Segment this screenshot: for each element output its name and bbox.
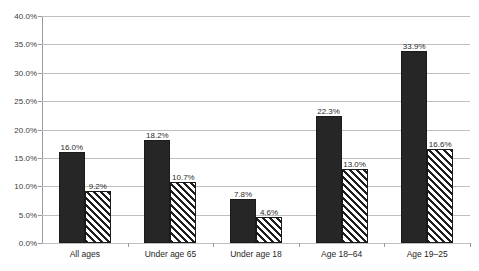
bar-group: 33.9%16.6% bbox=[401, 16, 453, 243]
y-axis-tick-label: 15.0% bbox=[14, 153, 37, 162]
y-axis-tick-mark bbox=[38, 186, 42, 187]
y-axis-tick-mark bbox=[38, 44, 42, 45]
x-axis-tick-mark bbox=[128, 243, 129, 247]
bar[interactable]: 9.2% bbox=[85, 191, 111, 243]
bar-value-label: 9.2% bbox=[89, 182, 107, 191]
x-axis-category-label: Under age 65 bbox=[128, 249, 214, 259]
y-axis-tick-label: 40.0% bbox=[14, 12, 37, 21]
bar-value-label: 13.0% bbox=[343, 160, 366, 169]
bar[interactable]: 16.0% bbox=[59, 152, 85, 243]
bar[interactable]: 22.3% bbox=[316, 116, 342, 243]
bar-value-label: 33.9% bbox=[403, 42, 426, 51]
y-axis-tick-mark bbox=[38, 130, 42, 131]
chart-title bbox=[0, 0, 479, 2]
bar[interactable]: 13.0% bbox=[342, 169, 368, 243]
bar-value-label: 10.7% bbox=[172, 173, 195, 182]
x-axis-tick-mark bbox=[299, 243, 300, 247]
bar-value-label: 22.3% bbox=[317, 107, 340, 116]
x-axis-tick-mark bbox=[384, 243, 385, 247]
y-axis-tick-mark bbox=[38, 101, 42, 102]
bar[interactable]: 16.6% bbox=[427, 149, 453, 243]
y-axis-tick-label: 25.0% bbox=[14, 97, 37, 106]
bar[interactable]: 10.7% bbox=[170, 182, 196, 243]
y-axis-tick-label: 20.0% bbox=[14, 125, 37, 134]
y-axis-tick-mark bbox=[38, 243, 42, 244]
y-axis-tick-mark bbox=[38, 73, 42, 74]
y-axis-tick-label: 10.0% bbox=[14, 182, 37, 191]
x-axis-category-label: Age 19–25 bbox=[384, 249, 470, 259]
bar-group: 16.0%9.2% bbox=[59, 16, 111, 243]
y-axis-tick-label: 30.0% bbox=[14, 68, 37, 77]
bar[interactable]: 4.6% bbox=[256, 217, 282, 243]
bar-group: 18.2%10.7% bbox=[144, 16, 196, 243]
x-axis-category-label: Age 18–64 bbox=[299, 249, 385, 259]
y-axis-tick-mark bbox=[38, 158, 42, 159]
y-axis-tick-label: 5.0% bbox=[19, 210, 37, 219]
gridline bbox=[42, 243, 470, 244]
bar[interactable]: 33.9% bbox=[401, 51, 427, 243]
y-axis-tick-mark bbox=[38, 215, 42, 216]
bar-value-label: 7.8% bbox=[234, 190, 252, 199]
bar-chart: 0.0%5.0%10.0%15.0%20.0%25.0%30.0%35.0%40… bbox=[0, 0, 479, 271]
bar-group: 7.8%4.6% bbox=[230, 16, 282, 243]
y-axis-tick-mark bbox=[38, 16, 42, 17]
bar-value-label: 16.0% bbox=[60, 143, 83, 152]
bar[interactable]: 7.8% bbox=[230, 199, 256, 243]
x-axis-category-label: Under age 18 bbox=[213, 249, 299, 259]
bar-group: 22.3%13.0% bbox=[316, 16, 368, 243]
bar-value-label: 18.2% bbox=[146, 131, 169, 140]
x-axis-tick-mark bbox=[213, 243, 214, 247]
y-axis-tick-label: 35.0% bbox=[14, 40, 37, 49]
bar[interactable]: 18.2% bbox=[144, 140, 170, 243]
y-axis-tick-label: 0.0% bbox=[19, 239, 37, 248]
x-axis-tick-mark bbox=[470, 243, 471, 247]
bar-value-label: 4.6% bbox=[260, 208, 278, 217]
x-axis-category-label: All ages bbox=[42, 249, 128, 259]
plot-area: 0.0%5.0%10.0%15.0%20.0%25.0%30.0%35.0%40… bbox=[42, 16, 470, 243]
bar-value-label: 16.6% bbox=[429, 140, 452, 149]
